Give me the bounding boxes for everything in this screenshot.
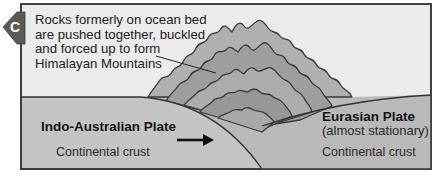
eurasian-crust-label: Continental crust (322, 146, 416, 159)
caption-line: are pushed together, buckled (35, 28, 225, 43)
panel-label: C (7, 19, 23, 35)
eurasian-plate-label: Eurasian Plate (322, 110, 415, 124)
plate-collision-diagram: C Rocks formerly on ocean bed are pushed… (0, 0, 434, 176)
caption-line: and forced up to form (35, 42, 225, 57)
indo-australian-plate-label: Indo-Australian Plate (41, 120, 176, 134)
caption-line: Rocks formerly on ocean bed (35, 13, 225, 28)
indo-australian-crust-label: Continental crust (56, 146, 150, 159)
caption-text: Rocks formerly on ocean bed are pushed t… (35, 13, 225, 71)
caption-line: Himalayan Mountains (35, 57, 225, 72)
eurasian-plate-note: (almost stationary) (322, 124, 429, 137)
